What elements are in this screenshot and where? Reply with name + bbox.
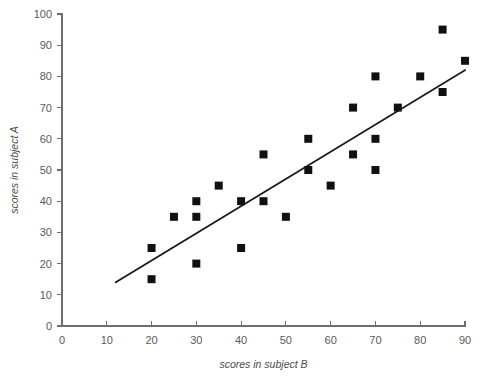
- data-point-marker: [371, 166, 379, 174]
- y-axis-tick-label: 90: [40, 39, 52, 51]
- trend-line: [116, 70, 465, 282]
- data-point-marker: [371, 135, 379, 143]
- data-point-marker: [148, 275, 156, 283]
- x-axis-tick-label: 40: [235, 334, 247, 346]
- y-axis-tick-label: 60: [40, 133, 52, 145]
- data-point-marker: [304, 135, 312, 143]
- y-axis-tick-label: 100: [34, 8, 52, 20]
- x-axis-tick-label: 70: [369, 334, 381, 346]
- x-axis-tick-label: 10: [101, 334, 113, 346]
- data-point-marker: [304, 166, 312, 174]
- plot-area: 0102030405060708090100010203040506070809…: [0, 0, 490, 377]
- data-point-marker: [192, 197, 200, 205]
- x-axis-tick-label: 80: [414, 334, 426, 346]
- data-point-marker: [327, 182, 335, 190]
- y-axis-tick-label: 20: [40, 258, 52, 270]
- y-axis-tick-label: 80: [40, 70, 52, 82]
- y-axis-tick-label: 30: [40, 226, 52, 238]
- data-point-marker: [192, 260, 200, 268]
- x-axis-tick-label: 0: [59, 334, 65, 346]
- y-axis-tick-label: 10: [40, 289, 52, 301]
- data-point-marker: [349, 150, 357, 158]
- data-point-marker: [282, 213, 290, 221]
- data-point-marker: [148, 244, 156, 252]
- data-point-marker: [349, 104, 357, 112]
- scatter-chart: 0102030405060708090100010203040506070809…: [0, 0, 490, 377]
- x-axis-tick-label: 90: [459, 334, 471, 346]
- data-point-marker: [371, 72, 379, 80]
- x-axis-title: scores in subject B: [219, 358, 307, 370]
- data-point-marker: [237, 197, 245, 205]
- data-point-marker: [237, 244, 245, 252]
- x-axis-tick-label: 50: [280, 334, 292, 346]
- data-point-marker: [215, 182, 223, 190]
- y-axis-tick-label: 50: [40, 164, 52, 176]
- data-point-marker: [394, 104, 402, 112]
- x-axis-tick-label: 60: [325, 334, 337, 346]
- data-point-marker: [439, 88, 447, 96]
- x-axis-tick-label: 30: [190, 334, 202, 346]
- y-axis-tick-label: 0: [46, 320, 52, 332]
- data-point-marker: [439, 26, 447, 34]
- data-point-marker: [416, 72, 424, 80]
- data-point-marker: [461, 57, 469, 65]
- data-point-marker: [192, 213, 200, 221]
- y-axis-title: scores in subject A: [8, 126, 20, 214]
- data-point-marker: [260, 150, 268, 158]
- x-axis-tick-label: 20: [145, 334, 157, 346]
- y-axis-tick-label: 70: [40, 102, 52, 114]
- data-point-marker: [260, 197, 268, 205]
- y-axis-tick-label: 40: [40, 195, 52, 207]
- data-point-marker: [170, 213, 178, 221]
